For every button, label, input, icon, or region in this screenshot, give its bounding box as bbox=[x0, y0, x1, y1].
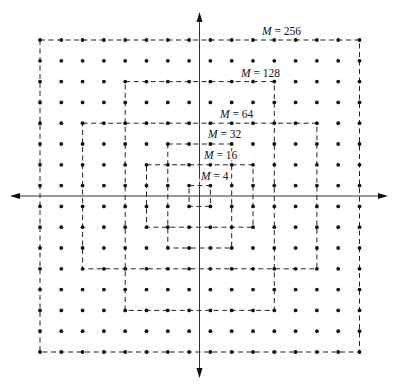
signal-point bbox=[187, 142, 191, 146]
signal-point bbox=[38, 267, 42, 271]
signal-point bbox=[166, 142, 170, 146]
signal-point bbox=[272, 309, 276, 313]
signal-point bbox=[315, 246, 319, 250]
signal-point bbox=[315, 329, 319, 333]
signal-point bbox=[251, 246, 255, 250]
signal-point bbox=[38, 101, 42, 105]
label-m32: M = 32 bbox=[207, 128, 242, 140]
signal-point bbox=[294, 246, 298, 250]
signal-point bbox=[272, 329, 276, 333]
signal-point bbox=[272, 225, 276, 229]
axes bbox=[10, 12, 388, 378]
signal-point bbox=[123, 142, 127, 146]
signal-point bbox=[294, 267, 298, 271]
signal-point bbox=[123, 80, 127, 84]
signal-point bbox=[145, 288, 149, 292]
signal-point bbox=[59, 205, 63, 209]
signal-point bbox=[315, 309, 319, 313]
signal-point bbox=[38, 205, 42, 209]
signal-point bbox=[102, 163, 106, 167]
signal-point bbox=[209, 246, 213, 250]
signal-point bbox=[315, 142, 319, 146]
signal-point bbox=[187, 329, 191, 333]
signal-point bbox=[251, 38, 255, 42]
signal-point bbox=[59, 350, 63, 354]
signal-point bbox=[209, 163, 213, 167]
signal-point bbox=[230, 38, 234, 42]
constellation-plot: M = 4M = 16M = 32M = 64M = 128M = 256 bbox=[0, 0, 393, 385]
signal-point bbox=[81, 225, 85, 229]
signal-point bbox=[187, 121, 191, 125]
signal-point bbox=[81, 121, 85, 125]
signal-point bbox=[187, 246, 191, 250]
signal-point bbox=[272, 288, 276, 292]
signal-point bbox=[145, 350, 149, 354]
signal-point bbox=[209, 101, 213, 105]
signal-point bbox=[336, 309, 340, 313]
signal-point bbox=[166, 350, 170, 354]
signal-point bbox=[336, 329, 340, 333]
signal-point bbox=[38, 225, 42, 229]
signal-point bbox=[272, 205, 276, 209]
signal-point bbox=[81, 350, 85, 354]
signal-point bbox=[315, 163, 319, 167]
label-m256: M = 256 bbox=[261, 25, 301, 37]
signal-point bbox=[102, 288, 106, 292]
constellation-diagram: M = 4M = 16M = 32M = 64M = 128M = 256 bbox=[0, 0, 393, 385]
signal-point bbox=[38, 80, 42, 84]
signal-point bbox=[166, 80, 170, 84]
signal-point bbox=[251, 142, 255, 146]
signal-point bbox=[315, 184, 319, 188]
signal-point bbox=[315, 267, 319, 271]
signal-point bbox=[230, 329, 234, 333]
signal-point bbox=[294, 184, 298, 188]
signal-point bbox=[38, 59, 42, 63]
signal-point bbox=[59, 163, 63, 167]
signal-point bbox=[251, 225, 255, 229]
signal-point bbox=[102, 142, 106, 146]
signal-point bbox=[187, 205, 191, 209]
signal-point bbox=[294, 309, 298, 313]
signal-point bbox=[102, 329, 106, 333]
signal-point bbox=[166, 163, 170, 167]
signal-point bbox=[102, 38, 106, 42]
signal-point bbox=[209, 288, 213, 292]
signal-point bbox=[123, 350, 127, 354]
signal-point bbox=[358, 59, 362, 63]
signal-point bbox=[209, 38, 213, 42]
signal-point bbox=[230, 59, 234, 63]
signal-point bbox=[123, 163, 127, 167]
signal-point bbox=[209, 142, 213, 146]
signal-point bbox=[315, 101, 319, 105]
signal-point bbox=[166, 121, 170, 125]
signal-point bbox=[166, 101, 170, 105]
signal-point bbox=[251, 350, 255, 354]
signal-point bbox=[294, 163, 298, 167]
signal-point bbox=[358, 80, 362, 84]
signal-point bbox=[187, 59, 191, 63]
signal-point bbox=[81, 205, 85, 209]
signal-point bbox=[38, 121, 42, 125]
label-m4: M = 4 bbox=[200, 170, 229, 182]
signal-point bbox=[251, 205, 255, 209]
signal-point bbox=[145, 163, 149, 167]
signal-point bbox=[315, 38, 319, 42]
signal-point bbox=[294, 350, 298, 354]
signal-point bbox=[358, 121, 362, 125]
signal-point bbox=[294, 101, 298, 105]
signal-point bbox=[187, 267, 191, 271]
signal-point bbox=[358, 350, 362, 354]
signal-point bbox=[294, 329, 298, 333]
signal-point bbox=[230, 163, 234, 167]
signal-point bbox=[358, 101, 362, 105]
signal-point bbox=[251, 267, 255, 271]
signal-point bbox=[81, 288, 85, 292]
arrow-right-icon bbox=[378, 193, 388, 199]
signal-point bbox=[81, 329, 85, 333]
signal-point bbox=[59, 184, 63, 188]
signal-point bbox=[102, 225, 106, 229]
signal-point bbox=[59, 38, 63, 42]
signal-point bbox=[230, 121, 234, 125]
signal-point bbox=[358, 38, 362, 42]
signal-point bbox=[102, 350, 106, 354]
